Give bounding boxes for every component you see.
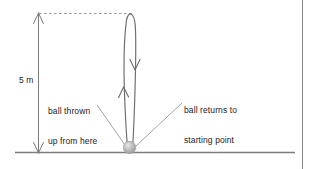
physics-diagram: 5 m ball thrown up from here ball return… bbox=[0, 0, 312, 169]
annotation-ball-thrown: ball thrown up from here bbox=[48, 86, 97, 166]
annotation-ball-thrown-line1: ball thrown bbox=[48, 106, 97, 116]
annotation-ball-thrown-line2: up from here bbox=[48, 136, 97, 146]
leader-line-left bbox=[97, 105, 125, 145]
diagram-canvas bbox=[0, 0, 312, 169]
trajectory-loop bbox=[119, 14, 140, 149]
leader-line-right bbox=[136, 103, 182, 146]
up-arrowhead bbox=[119, 87, 129, 98]
height-dimension-arrow bbox=[34, 13, 44, 153]
annotation-ball-returns: ball returns to starting point bbox=[184, 85, 237, 165]
annotation-ball-returns-line1: ball returns to bbox=[184, 105, 237, 115]
height-dimension-label: 5 m bbox=[19, 75, 33, 85]
annotation-ball-returns-line2: starting point bbox=[184, 135, 237, 145]
ball bbox=[123, 141, 135, 153]
